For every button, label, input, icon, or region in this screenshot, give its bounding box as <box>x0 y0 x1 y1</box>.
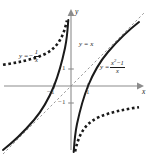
fraction-one-over-x: 1x <box>34 49 39 64</box>
label-line-y-equals-x: y = x <box>79 41 93 48</box>
curve-neg-inv-x-lower-right <box>75 107 139 151</box>
fraction-denominator: x <box>115 68 120 75</box>
numerator-tail: −1 <box>116 59 124 66</box>
x-axis-label: x <box>142 88 145 96</box>
y-axis-label: y <box>75 8 78 16</box>
label-main-curve: y =x2−1x <box>100 60 125 75</box>
rational-function-figure: y x −1 1 1 −1 y =−1x y = x y =x2−1x <box>0 0 150 155</box>
graph-canvas <box>0 0 150 155</box>
y-tick-label-neg1: −1 <box>58 99 65 106</box>
asymptote-line-y-equals-x <box>3 13 144 154</box>
x-tick-label-neg1: −1 <box>47 89 54 96</box>
label-neg-inverse-x-lhs: y = <box>19 52 29 60</box>
fraction-denominator: x <box>34 57 39 64</box>
y-axis-arrowhead <box>68 9 75 16</box>
fraction-x2-minus-1-over-x: x2−1x <box>110 60 125 75</box>
y-tick-label-1: 1 <box>62 65 66 72</box>
label-neg-inverse-x: y =−1x <box>19 49 40 64</box>
curve-main-left-branch <box>3 20 68 150</box>
label-main-curve-lhs: y = <box>100 63 110 71</box>
x-tick-label-1: 1 <box>86 89 90 96</box>
label-neg-inverse-x-minus: − <box>29 52 34 60</box>
